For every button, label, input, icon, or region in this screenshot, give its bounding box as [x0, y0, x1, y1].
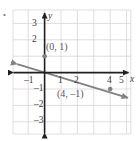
point-label-0-1: (0, 1): [46, 42, 68, 52]
x-tick-2: 2: [74, 76, 79, 86]
x-tick-4: 4: [107, 76, 112, 86]
x-tick-5: 5: [119, 76, 124, 86]
data-point-0-1: [42, 54, 47, 59]
bullet-marker: •: [3, 12, 6, 20]
y-tick-neg2: –2: [34, 100, 44, 110]
point-label-4-neg1: (4, –1): [57, 89, 84, 99]
x-axis-label: x: [130, 75, 134, 85]
coordinate-graph-figure: • y x 3 2 –1 –2 –3 –1 1 2 4 5 (0, 1) (4,…: [0, 0, 140, 141]
y-tick-neg3: –3: [34, 116, 44, 126]
x-tick-neg1: –1: [24, 76, 34, 86]
y-axis-label: y: [48, 12, 52, 22]
data-point-4-neg1: [108, 87, 113, 92]
graph-canvas: [0, 0, 140, 141]
x-tick-1: 1: [58, 76, 63, 86]
y-tick-neg1: –1: [34, 84, 44, 94]
y-tick-3: 3: [32, 19, 37, 29]
y-tick-2: 2: [32, 35, 37, 45]
